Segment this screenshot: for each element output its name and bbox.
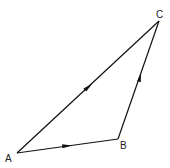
label-b: B — [120, 140, 127, 151]
arrow-bc-icon — [137, 73, 141, 82]
label-c: C — [156, 9, 163, 20]
arrow-ab-icon — [62, 144, 72, 148]
triangle-diagram: A B C — [0, 0, 170, 168]
label-a: A — [5, 153, 12, 164]
